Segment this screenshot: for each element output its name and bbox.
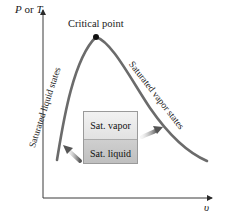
saturation-diagram: P or T υ Critical point Saturated liquid… [0, 0, 227, 223]
y-axis-or: or [22, 3, 37, 15]
y-axis-var-p: P [15, 3, 22, 15]
container-box: Sat. vapor Sat. liquid [83, 111, 138, 164]
y-axis-label: P or T [15, 4, 43, 15]
liquid-arrow-icon [63, 145, 80, 161]
sat-liquid-region: Sat. liquid [84, 139, 137, 164]
y-axis-var-t: T [36, 3, 42, 15]
vapor-arrow-icon [142, 126, 163, 137]
sat-vapor-region: Sat. vapor [84, 112, 137, 139]
critical-point-label: Critical point [68, 19, 124, 30]
critical-point-dot [93, 34, 99, 40]
x-axis-label: υ [204, 202, 209, 213]
